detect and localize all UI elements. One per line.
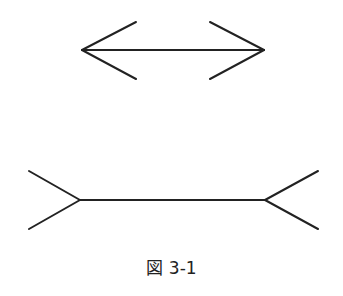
bottom-figure-fins [29,171,318,229]
bottom-right-lower-fin [265,200,318,229]
figure-caption: 図 3-1 [0,254,343,279]
bottom-left-lower-fin [29,200,80,229]
muller-lyer-diagram [0,0,343,296]
top-left-upper-arm [82,22,136,50]
top-right-upper-arm [210,22,264,50]
top-left-lower-arm [82,50,136,79]
bottom-left-upper-fin [29,171,80,200]
top-right-lower-arm [210,50,264,79]
bottom-right-upper-fin [265,171,318,200]
top-figure-arrows [82,22,264,79]
